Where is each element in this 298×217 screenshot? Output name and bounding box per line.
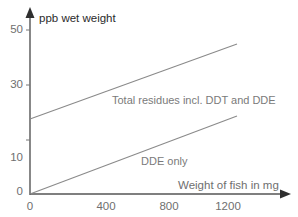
series-line-total-residues bbox=[30, 44, 237, 119]
y-tick-label-0: 0 bbox=[3, 186, 23, 198]
arrow-right-icon bbox=[280, 190, 291, 199]
y-axis-title: ppb wet weight bbox=[39, 13, 116, 25]
x-tick-label-800: 800 bbox=[149, 201, 189, 213]
y-tick-label-30: 30 bbox=[3, 79, 23, 91]
arrow-up-icon bbox=[26, 7, 35, 18]
x-tick-label-1200: 1200 bbox=[208, 201, 248, 213]
y-tick-label-10: 10 bbox=[3, 152, 23, 164]
x-tick-label-400: 400 bbox=[86, 201, 126, 213]
y-tick-label-50: 50 bbox=[3, 24, 23, 36]
series-label-total-residues: Total residues incl. DDT and DDE bbox=[112, 95, 276, 106]
x-axis-title: Weight of fish in mg bbox=[178, 180, 279, 192]
x-tick-label-0: 0 bbox=[10, 201, 50, 213]
chart-figure: ppb wet weight 50 30 10 0 0 400 800 1200… bbox=[0, 0, 298, 217]
series-label-dde-only: DDE only bbox=[141, 156, 187, 167]
